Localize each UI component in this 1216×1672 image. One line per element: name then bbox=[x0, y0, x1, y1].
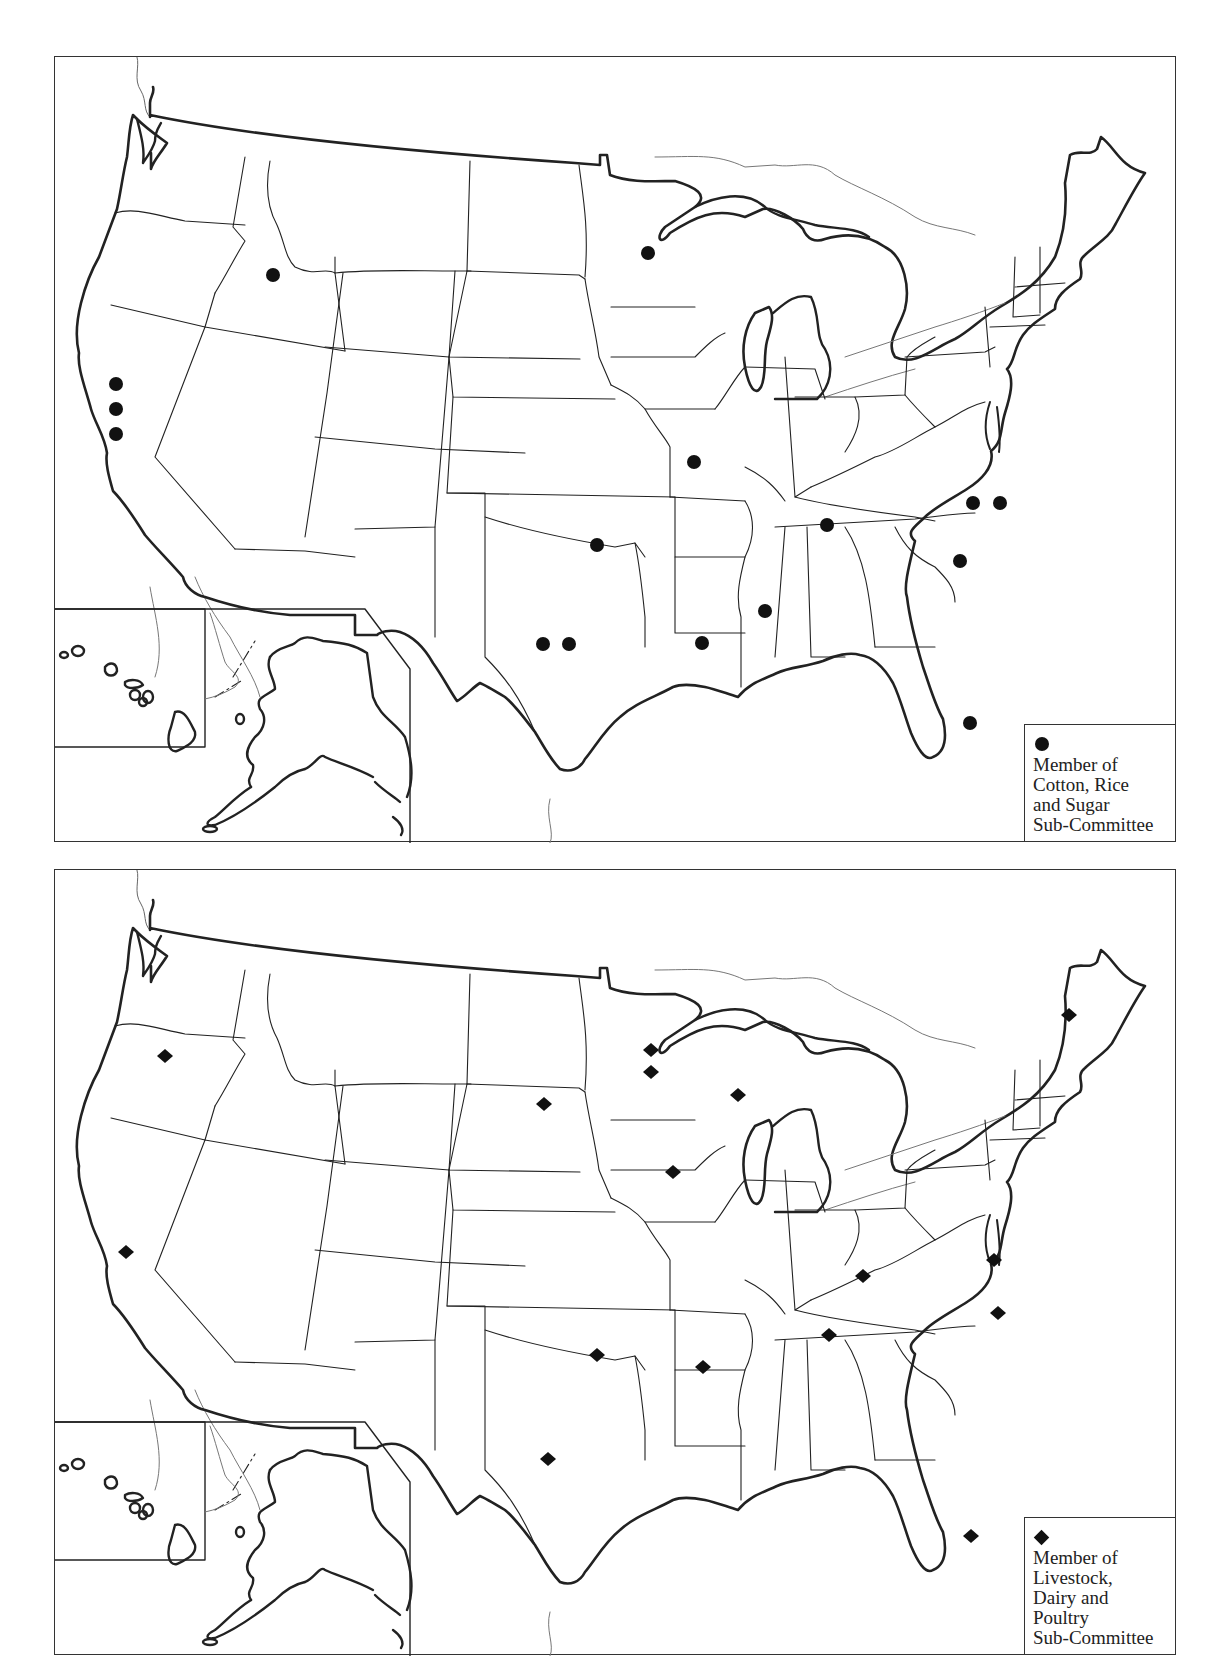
filled-circle-icon bbox=[1035, 737, 1049, 751]
us-state-map bbox=[55, 870, 1177, 1656]
member-diamond-marker bbox=[157, 1049, 173, 1063]
marker-layer bbox=[118, 1008, 1077, 1543]
member-circle-marker bbox=[536, 637, 550, 651]
member-circle-marker bbox=[687, 455, 701, 469]
member-diamond-marker bbox=[730, 1088, 746, 1102]
member-circle-marker bbox=[109, 402, 123, 416]
member-diamond-marker bbox=[1061, 1008, 1077, 1022]
member-circle-marker bbox=[993, 496, 1007, 510]
marker-layer bbox=[109, 246, 1007, 730]
member-diamond-marker bbox=[821, 1328, 837, 1342]
member-diamond-marker bbox=[643, 1043, 659, 1057]
filled-diamond-icon bbox=[1034, 1530, 1050, 1546]
member-diamond-marker bbox=[643, 1065, 659, 1079]
legend-symbol bbox=[1033, 733, 1169, 755]
member-circle-marker bbox=[820, 518, 834, 532]
member-circle-marker bbox=[695, 636, 709, 650]
member-circle-marker bbox=[109, 377, 123, 391]
legend-line: and Sugar bbox=[1033, 795, 1169, 815]
member-diamond-marker bbox=[665, 1165, 681, 1179]
member-diamond-marker bbox=[589, 1348, 605, 1362]
member-circle-marker bbox=[641, 246, 655, 260]
member-diamond-marker bbox=[855, 1269, 871, 1283]
member-circle-marker bbox=[266, 268, 280, 282]
member-circle-marker bbox=[953, 554, 967, 568]
legend-line: Member of bbox=[1033, 1548, 1169, 1568]
map-panel-cotton-rice-sugar: Member of Cotton, Rice and Sugar Sub-Com… bbox=[54, 56, 1176, 842]
legend-line: Dairy and bbox=[1033, 1588, 1169, 1608]
legend-line: Poultry bbox=[1033, 1608, 1169, 1628]
member-circle-marker bbox=[963, 716, 977, 730]
legend-line: Sub-Committee bbox=[1033, 815, 1169, 835]
member-circle-marker bbox=[758, 604, 772, 618]
member-diamond-marker bbox=[118, 1245, 134, 1259]
us-state-map bbox=[55, 57, 1177, 843]
member-circle-marker bbox=[109, 427, 123, 441]
member-diamond-marker bbox=[536, 1097, 552, 1111]
legend-line: Livestock, bbox=[1033, 1568, 1169, 1588]
legend: Member of Livestock, Dairy and Poultry S… bbox=[1024, 1517, 1176, 1655]
member-diamond-marker bbox=[990, 1306, 1006, 1320]
member-circle-marker bbox=[590, 538, 604, 552]
legend-line: Member of bbox=[1033, 755, 1169, 775]
member-circle-marker bbox=[562, 637, 576, 651]
legend: Member of Cotton, Rice and Sugar Sub-Com… bbox=[1024, 724, 1176, 842]
member-diamond-marker bbox=[695, 1360, 711, 1374]
member-diamond-marker bbox=[540, 1452, 556, 1466]
legend-symbol bbox=[1033, 1526, 1169, 1548]
legend-line: Cotton, Rice bbox=[1033, 775, 1169, 795]
legend-line: Sub-Committee bbox=[1033, 1628, 1169, 1648]
member-circle-marker bbox=[966, 496, 980, 510]
member-diamond-marker bbox=[963, 1529, 979, 1543]
map-panel-livestock-dairy-poultry: Member of Livestock, Dairy and Poultry S… bbox=[54, 869, 1176, 1655]
